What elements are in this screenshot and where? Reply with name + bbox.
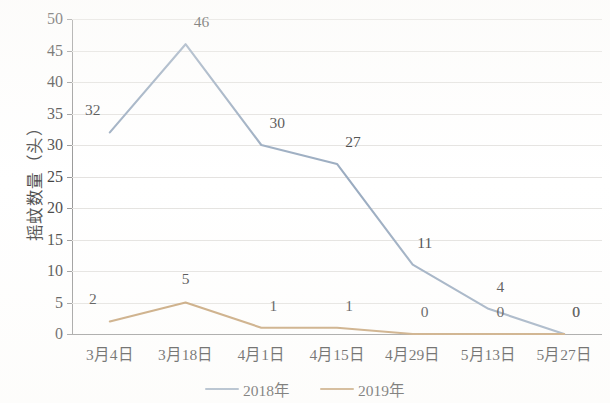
legend-item-2019年[interactable]: 2019年 [320,378,405,400]
y-axis-title: 摇蚊数量（头） [22,50,46,310]
data-label-2019年-5月13日: 0 [497,303,505,321]
legend-label-2018年: 2018年 [243,378,290,400]
x-tick-label-5月27日: 5月27日 [537,342,592,364]
series-lines [72,19,602,334]
y-tick-label-40: 40 [47,73,63,91]
data-label-2019年-4月29日: 0 [421,303,429,321]
x-tick-label-4月1日: 4月1日 [238,342,286,364]
data-label-2019年-3月18日: 5 [182,270,190,288]
y-tick-label-15: 15 [47,231,63,249]
data-label-2018年-4月1日: 30 [270,114,286,132]
data-label-2019年-3月4日: 2 [89,290,97,308]
y-tick-label-35: 35 [47,105,63,123]
x-axis-labels: 3月4日3月18日4月1日4月15日4月29日5月13日5月27日 [72,342,602,368]
chart-figure: 摇蚊数量（头） 05101520253035404550 32463027114… [0,0,610,403]
legend-swatch-2018年 [205,388,239,390]
legend-swatch-2019年 [320,388,354,390]
data-label-2018年-4月15日: 27 [345,133,361,151]
legend-label-2019年: 2019年 [358,378,405,400]
y-tick-label-50: 50 [47,10,63,28]
x-tick-label-5月13日: 5月13日 [461,342,516,364]
y-tick-label-45: 45 [47,42,63,60]
data-label-2018年-5月13日: 4 [497,278,505,296]
data-label-2018年-3月4日: 32 [85,101,101,119]
y-tick-label-0: 0 [55,325,63,343]
y-tick-label-30: 30 [47,136,63,154]
plot-area: 05101520253035404550 3246302711402511000 [72,19,602,334]
chart-legend: 2018年2019年 [0,378,610,400]
y-tick-label-20: 20 [47,199,63,217]
data-label-2019年-4月15日: 1 [345,297,353,315]
x-tick-label-3月18日: 3月18日 [158,342,213,364]
data-label-2019年-4月1日: 1 [269,297,277,315]
y-tick-label-10: 10 [47,262,63,280]
x-tick-label-3月4日: 3月4日 [86,342,134,364]
x-tick-label-4月29日: 4月29日 [385,342,440,364]
y-tick-label-25: 25 [47,168,63,186]
x-tick-label-4月15日: 4月15日 [309,342,364,364]
legend-item-2018年[interactable]: 2018年 [205,378,290,400]
data-label-2018年-4月29日: 11 [417,234,432,252]
data-label-2019年-5月27日: 0 [572,303,580,321]
data-label-2018年-3月18日: 46 [194,13,210,31]
y-tick-mark-0 [67,334,72,335]
y-tick-label-5: 5 [55,294,63,312]
